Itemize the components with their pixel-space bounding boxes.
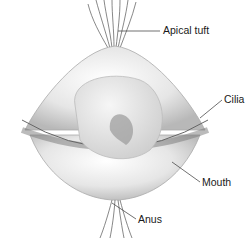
label-mouth: Mouth bbox=[202, 176, 231, 188]
trochophore-diagram: Apical tuft Cilia Mouth Anus bbox=[0, 0, 248, 238]
label-apical-tuft: Apical tuft bbox=[163, 24, 209, 36]
larva-illustration bbox=[0, 0, 248, 238]
apical-tuft-hairs bbox=[88, 0, 136, 48]
label-anus: Anus bbox=[138, 213, 162, 225]
label-cilia: Cilia bbox=[224, 93, 244, 105]
